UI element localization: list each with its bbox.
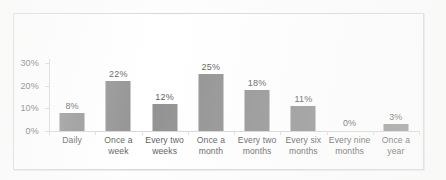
bar-slot: 25% [188, 63, 234, 131]
bar-slot: 18% [234, 63, 280, 131]
category-label: Once a year [373, 135, 419, 157]
bar[interactable] [198, 74, 223, 131]
bar-data-label: 8% [65, 101, 78, 111]
chart-frame: 30% 20% 10% 0% 8% [13, 13, 424, 170]
plot-area: 30% 20% 10% 0% 8% [49, 63, 419, 131]
bar-data-label: 3% [389, 112, 402, 122]
bar[interactable] [60, 113, 85, 131]
category-label-line: months [280, 146, 326, 157]
bar[interactable] [106, 81, 131, 131]
category-label: Daily [49, 135, 95, 146]
bar[interactable] [152, 104, 177, 131]
bar-data-label: 22% [109, 69, 128, 79]
bar-slot: 0% [327, 63, 373, 131]
value-axis-label: 20% [20, 81, 39, 91]
value-axis-label: 30% [20, 58, 39, 68]
bar-data-label: 12% [155, 92, 174, 102]
category-label-line: weeks [142, 146, 188, 157]
category-label-line: month [188, 146, 234, 157]
bar-slot: 3% [373, 63, 419, 131]
bar-data-label: 0% [343, 118, 356, 128]
category-label-line: week [95, 146, 141, 157]
category-label: Every two weeks [142, 135, 188, 157]
category-axis-tick [419, 131, 420, 135]
chart-screenshot: 30% 20% 10% 0% 8% [0, 0, 446, 180]
bar-slot: 12% [142, 63, 188, 131]
bar-data-label: 11% [294, 94, 312, 104]
category-label-line: months [327, 146, 373, 157]
category-label: Every two months [234, 135, 280, 157]
bar[interactable] [245, 90, 270, 131]
category-label-line: Once a [188, 135, 234, 146]
bar[interactable] [291, 106, 316, 131]
value-axis-label: 0% [26, 126, 39, 136]
category-label: Once a week [95, 135, 141, 157]
category-label-line: Every two [234, 135, 280, 146]
category-label-line: Every six [280, 135, 326, 146]
category-label-line: Daily [49, 135, 95, 146]
bar-slot: 8% [49, 63, 95, 131]
category-label: Once a month [188, 135, 234, 157]
category-label: Every nine months [327, 135, 373, 157]
category-label: Every six months [280, 135, 326, 157]
bar-slot: 11% [280, 63, 326, 131]
value-axis-label: 10% [20, 103, 39, 113]
bar-data-label: 18% [248, 78, 267, 88]
category-label-line: months [234, 146, 280, 157]
category-label-line: Once a [95, 135, 141, 146]
bar-data-label: 25% [202, 62, 221, 72]
category-label-line: year [373, 146, 419, 157]
bar-slot: 22% [95, 63, 141, 131]
category-label-line: Once a [373, 135, 419, 146]
category-label-line: Every nine [327, 135, 373, 146]
bar[interactable] [383, 124, 408, 131]
category-label-line: Every two [142, 135, 188, 146]
